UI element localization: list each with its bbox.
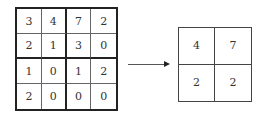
input-cell: 0 <box>91 34 116 59</box>
input-cell: 1 <box>42 34 67 59</box>
output-cell: 2 <box>179 65 215 102</box>
input-cell: 7 <box>67 9 92 34</box>
input-cell: 2 <box>17 84 42 109</box>
input-cell: 2 <box>91 59 116 84</box>
input-cell: 0 <box>42 59 67 84</box>
input-matrix: 3 4 7 2 2 1 3 0 1 0 1 2 2 0 0 0 <box>15 7 118 111</box>
input-cell: 2 <box>91 9 116 34</box>
input-cell: 0 <box>67 84 92 109</box>
input-cell: 4 <box>42 9 67 34</box>
right-arrow-icon <box>128 64 168 65</box>
output-matrix: 4 7 2 2 <box>178 27 252 102</box>
input-cell: 0 <box>42 84 67 109</box>
output-cell: 7 <box>215 28 251 65</box>
input-cell: 0 <box>91 84 116 109</box>
input-cell: 3 <box>67 34 92 59</box>
input-cell: 1 <box>17 59 42 84</box>
input-cell: 2 <box>17 34 42 59</box>
output-cell: 2 <box>215 65 251 102</box>
output-cell: 4 <box>179 28 215 65</box>
input-cell: 1 <box>67 59 92 84</box>
input-cell: 3 <box>17 9 42 34</box>
